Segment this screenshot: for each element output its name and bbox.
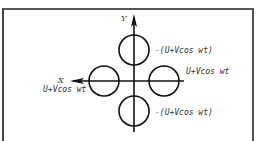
circle-left-label: U+Vcos wt	[43, 85, 87, 94]
y-axis-label: Y	[121, 14, 127, 23]
diagram: Y X -(U+Vcos wt) U+Vcos wt U+Vcos wt -(U…	[0, 0, 258, 141]
circle-right-label: U+Vcos wt	[186, 67, 230, 76]
x-axis-label: X	[57, 76, 64, 85]
circle-top-label: -(U+Vcos wt)	[155, 46, 213, 55]
diagram-canvas: Y X -(U+Vcos wt) U+Vcos wt U+Vcos wt -(U…	[0, 0, 258, 141]
circle-bottom-label: -(U+Vcos wt)	[155, 108, 213, 117]
